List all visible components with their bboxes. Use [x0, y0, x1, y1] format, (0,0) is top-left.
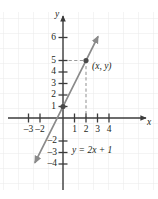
background-grid — [0, 12, 158, 190]
y-tick-label-3: 3 — [51, 79, 56, 89]
point-x-y — [83, 58, 88, 63]
y-axis-label: y — [55, 10, 59, 20]
y-tick-label-1: 1 — [51, 102, 56, 112]
x-tick-label-3: 3 — [95, 125, 100, 135]
x-tick-label-2: 2 — [84, 125, 89, 135]
y-tick-label-minus-4: –4 — [48, 159, 58, 169]
point-annotation: (x, y) — [92, 62, 112, 72]
y-tick-label-6: 6 — [51, 33, 56, 43]
y-tick-label-minus-3: –3 — [48, 148, 58, 158]
point-y-intercept — [60, 104, 65, 109]
y-tick-label-2: 2 — [51, 90, 56, 100]
y-tick-label-5: 5 — [51, 56, 56, 66]
x-tick-label-4: 4 — [107, 125, 112, 135]
x-tick-label-minus-2: –2 — [35, 125, 45, 135]
equation-annotation: y = 2x + 1 — [72, 146, 112, 156]
x-tick-label-minus-3: –3 — [24, 125, 34, 135]
x-tick-label-1: 1 — [72, 125, 77, 135]
graph-figure: y x 6 5 4 3 2 1 –2 –3 –4 –3 –2 1 2 3 4 (… — [0, 0, 158, 199]
x-axis-label: x — [147, 118, 151, 128]
y-tick-label-minus-2: –2 — [48, 136, 58, 146]
coordinate-plane-svg — [0, 0, 158, 199]
y-tick-label-4: 4 — [51, 67, 56, 77]
